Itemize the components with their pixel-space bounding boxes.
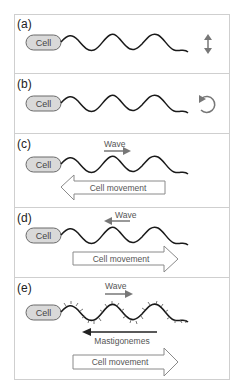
cell-movement-label: Cell movement <box>92 357 149 367</box>
wave-label: Wave <box>115 210 137 220</box>
cell-movement-label: Cell movement <box>93 254 150 264</box>
flagellum-wave <box>61 34 188 52</box>
panel-c: (c) Wave Cell Cell movement <box>17 137 188 200</box>
cell-label: Cell <box>36 160 52 170</box>
panel-b: (b) Cell <box>17 77 215 113</box>
flagellum-wave <box>61 95 188 113</box>
mastigonemes-left-arrow-icon <box>82 328 157 336</box>
mastigonemes-label: Mastigonemes <box>94 336 149 346</box>
panel-label: (e) <box>17 281 32 295</box>
wave-direction-right-arrow-icon <box>105 290 133 298</box>
panel-e: (e) Wave Cell Mastigonemes <box>17 281 188 376</box>
cell-label: Cell <box>36 231 52 241</box>
figure-frame <box>15 15 230 380</box>
flagellum-wave-with-mastigonemes <box>61 304 188 322</box>
flagellum-wave <box>61 156 188 174</box>
panel-label: (a) <box>17 17 32 31</box>
panel-label: (b) <box>17 77 32 91</box>
wave-label: Wave <box>105 281 127 291</box>
panel-label: (c) <box>17 137 31 151</box>
cell-label: Cell <box>36 38 52 48</box>
cell-label: Cell <box>36 99 52 109</box>
rotation-arrow-icon <box>199 95 215 112</box>
flagellar-motion-diagram: (a) Cell (b) Cell (c) Wave Cell <box>0 0 240 387</box>
flagellum-wave <box>61 227 188 245</box>
wave-label: Wave <box>104 139 126 149</box>
cell-movement-label: Cell movement <box>90 183 147 193</box>
panel-label: (d) <box>17 211 32 225</box>
panel-d: (d) Wave Cell Cell movement <box>17 210 188 272</box>
mastigonemes-hairs <box>64 301 186 324</box>
up-down-arrow-icon <box>204 34 212 54</box>
cell-label: Cell <box>36 308 52 318</box>
panel-a: (a) Cell <box>17 17 212 54</box>
